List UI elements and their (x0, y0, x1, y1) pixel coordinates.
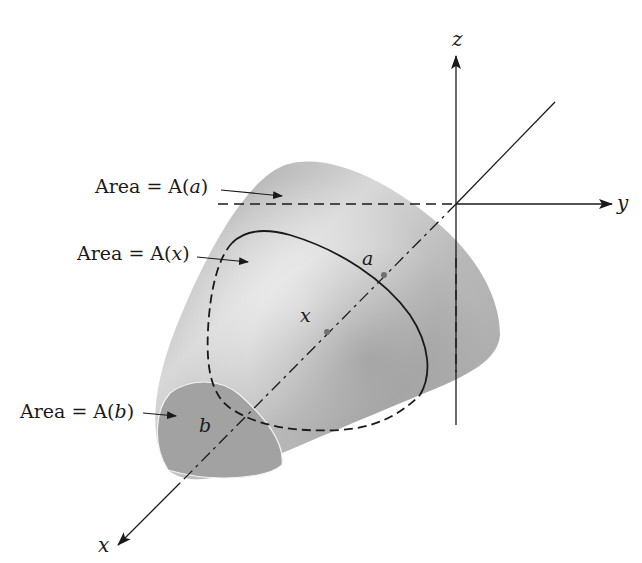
svg-text:Area = A(a): Area = A(a) (94, 175, 208, 197)
solid-cross-section-diagram: z y x a x b Area = A(a) Area = A(x) Area… (0, 0, 642, 563)
y-axis-label: y (616, 191, 629, 215)
point-b-label: b (199, 414, 211, 436)
svg-text:Area = A(x): Area = A(x) (76, 242, 190, 264)
annotation-area-a: Area = A(a) (94, 175, 282, 197)
x-axis (118, 483, 180, 545)
svg-text:Area = A(b): Area = A(b) (19, 400, 134, 422)
x-axis-back (456, 102, 555, 204)
point-a-marker (381, 272, 387, 278)
annotation-area-b: Area = A(b) (19, 400, 176, 422)
point-x-marker (324, 329, 330, 335)
point-x-label: x (300, 304, 311, 326)
z-axis-label: z (451, 27, 463, 51)
point-a-label: a (362, 247, 373, 269)
x-axis-label: x (98, 533, 109, 557)
